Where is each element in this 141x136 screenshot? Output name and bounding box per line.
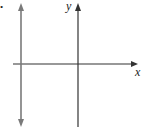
y-axis-arrow-icon (75, 3, 81, 11)
line-bottom-arrow-icon (18, 119, 24, 127)
bullet-marker: • (0, 3, 3, 12)
coordinate-plane (0, 0, 141, 136)
x-axis-label: x (135, 66, 140, 78)
y-axis-label: y (66, 0, 71, 12)
line-top-arrow-icon (18, 3, 24, 11)
